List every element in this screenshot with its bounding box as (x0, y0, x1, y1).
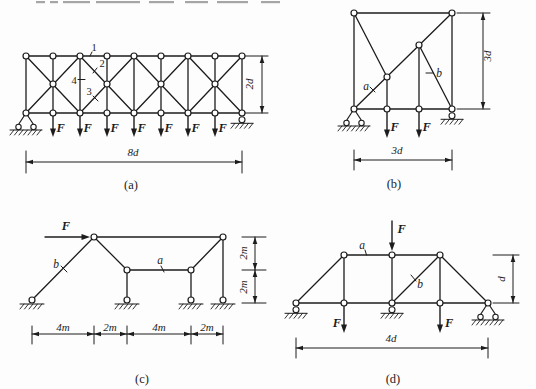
label-F: F (390, 120, 400, 134)
ground-hatch (10, 130, 14, 135)
arrowhead-icon (253, 237, 258, 244)
label-a: a (363, 80, 369, 92)
text-fragment (261, 1, 280, 3)
ground-hatch (24, 130, 28, 135)
label-b: b (53, 258, 59, 270)
truss-figure-b: FF3d3dab (338, 10, 493, 170)
arrowhead-icon (481, 102, 486, 109)
arrowhead-icon (127, 332, 134, 337)
joint-hinge (389, 300, 395, 306)
label-F: F (83, 121, 93, 135)
ground-hatch (231, 123, 235, 128)
arrowhead-icon (94, 332, 101, 337)
text-fragment (185, 1, 208, 3)
ground-hatch (455, 119, 459, 124)
joint-hinge (185, 53, 191, 59)
ground-hatch (441, 119, 445, 124)
member (191, 237, 223, 270)
arrowhead-icon (296, 346, 303, 351)
label-tick (365, 250, 367, 255)
ground-hatch (120, 304, 124, 309)
ground-hatch (343, 126, 347, 131)
joint-hinge (158, 110, 164, 116)
ground-hatch (299, 313, 303, 318)
roller-icon (293, 307, 299, 313)
arrowhead-icon (212, 129, 218, 138)
arrowhead-icon (481, 13, 486, 20)
joint-hinge (50, 81, 56, 87)
arrowhead-icon (184, 332, 191, 337)
joint-hinge (29, 297, 35, 303)
member (296, 255, 344, 303)
arrowhead-icon (260, 56, 265, 63)
roller-icon (449, 113, 455, 119)
joint-hinge (220, 297, 226, 303)
arrowhead-icon (185, 129, 191, 138)
ground-hatch (356, 126, 360, 131)
arrowhead-icon (437, 325, 443, 334)
truss-figure-a: FFFFFFF8d2d1243 (10, 42, 268, 173)
ground-hatch (477, 320, 481, 325)
arrowhead-icon (87, 332, 94, 337)
ground-hatch (386, 313, 390, 318)
arrowhead-icon (260, 106, 265, 113)
label-a: a (359, 239, 365, 251)
ground-hatch (365, 126, 369, 131)
label-3d: 3d (481, 50, 493, 63)
arrowhead-icon (50, 129, 56, 138)
label-2: 2 (99, 58, 104, 69)
joint-hinge (341, 300, 347, 306)
ground-hatch (399, 313, 403, 318)
text-fragment (149, 1, 174, 3)
ground-hatch (188, 304, 192, 309)
ground-hatch (495, 320, 499, 325)
pin-roller-icon (359, 120, 364, 125)
ground-hatch (193, 304, 197, 309)
ground-hatch (390, 313, 394, 318)
text-fragment (217, 1, 248, 3)
label-4: 4 (71, 75, 77, 86)
label-4m: 4m (152, 321, 166, 333)
ground-hatch (33, 130, 37, 135)
arrowhead-icon (511, 296, 516, 303)
joint-hinge (124, 297, 130, 303)
joint-hinge (23, 53, 29, 59)
label-4m: 4m (56, 321, 70, 333)
ground-hatch (486, 320, 490, 325)
ground-hatch (352, 126, 356, 131)
ground-hatch (481, 320, 485, 325)
arrowhead-icon (481, 346, 488, 351)
arrowhead-icon (26, 160, 33, 165)
label-4d: 4d (386, 332, 398, 344)
joint-hinge (131, 53, 137, 59)
text-fragment (36, 1, 45, 3)
arrowhead-icon (389, 243, 395, 252)
arrowhead-icon (131, 129, 137, 138)
ground-hatch (490, 320, 494, 325)
joint-hinge (416, 106, 422, 112)
ground-hatch (216, 304, 220, 309)
ground-hatch (179, 304, 183, 309)
ground-hatch (395, 313, 399, 318)
caption-b: (b) (387, 177, 402, 192)
label-3: 3 (86, 86, 91, 97)
member (354, 13, 387, 77)
label-2m: 2m (200, 321, 214, 333)
ground-hatch (499, 320, 503, 325)
pin-roller-icon (493, 314, 498, 319)
joint-hinge (50, 53, 56, 59)
arrowhead-icon (216, 332, 223, 337)
joint-hinge (77, 110, 83, 116)
label-8d: 8d (128, 146, 140, 158)
joint-hinge (485, 300, 491, 306)
ground-hatch (133, 304, 137, 309)
joint-hinge (23, 110, 29, 116)
joint-hinge (351, 106, 357, 112)
ground-hatch (197, 304, 201, 309)
ground-hatch (184, 304, 188, 309)
ground-hatch (124, 304, 128, 309)
joint-hinge (104, 110, 110, 116)
joint-hinge (91, 234, 97, 240)
joint-hinge (104, 81, 110, 87)
joint-hinge (212, 110, 218, 116)
